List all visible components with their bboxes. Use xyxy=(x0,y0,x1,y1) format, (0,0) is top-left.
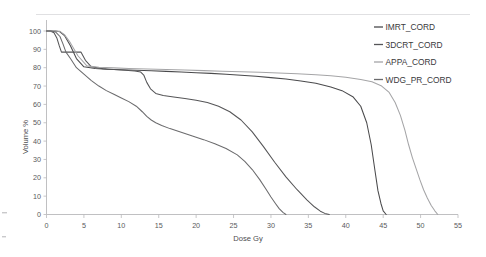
y-tick-label: 100 xyxy=(29,27,41,36)
x-tick-labels: 0510152025303540455055 xyxy=(45,221,463,230)
y-tick-label: 40 xyxy=(33,137,41,146)
y-tick-label: 20 xyxy=(33,173,41,182)
y-axis-title: Volume % xyxy=(21,120,30,154)
y-tick-label: 70 xyxy=(33,82,41,91)
legend-item: WDG_PR_CORD xyxy=(374,75,452,85)
x-tick-label: 45 xyxy=(379,221,387,230)
x-tick-label: 5 xyxy=(82,221,86,230)
x-axis: 0510152025303540455055 Dose Gy xyxy=(45,215,463,244)
x-tick-label: 50 xyxy=(417,221,425,230)
series-3dcrt-cord xyxy=(47,31,330,215)
chart-legend: IMRT_CORD3DCRT_CORDAPPA_CORDWDG_PR_CORD xyxy=(374,22,452,85)
legend-label: APPA_CORD xyxy=(386,57,437,67)
legend-label: 3DCRT_CORD xyxy=(386,40,443,50)
chart-page: 0102030405060708090100 Volume % 05101520… xyxy=(0,0,486,257)
legend-item: APPA_CORD xyxy=(374,57,437,67)
y-axis: 0102030405060708090100 Volume % xyxy=(21,20,47,219)
x-tick-label: 55 xyxy=(454,221,462,230)
x-axis-title: Dose Gy xyxy=(233,234,263,243)
x-tick-label: 35 xyxy=(304,221,312,230)
y-tick-label: 0 xyxy=(37,210,41,219)
y-tick-labels: 0102030405060708090100 xyxy=(29,27,41,220)
y-tick-label: 90 xyxy=(33,45,41,54)
legend-item: 3DCRT_CORD xyxy=(374,40,443,50)
y-tick-label: 50 xyxy=(33,118,41,127)
x-tick-label: 20 xyxy=(192,221,200,230)
dvh-chart: 0102030405060708090100 Volume % 05101520… xyxy=(0,0,486,257)
y-tick-label: 30 xyxy=(33,155,41,164)
series-appa-cord xyxy=(47,31,438,215)
y-tick-label: 60 xyxy=(33,100,41,109)
y-tick-label: 80 xyxy=(33,63,41,72)
series-group xyxy=(47,31,438,215)
legend-label: WDG_PR_CORD xyxy=(386,75,452,85)
series-imrt-cord xyxy=(47,31,387,215)
legend-item: IMRT_CORD xyxy=(374,22,435,32)
x-tick-label: 10 xyxy=(117,221,125,230)
x-tick-marks xyxy=(47,215,459,219)
x-tick-label: 30 xyxy=(267,221,275,230)
y-tick-label: 10 xyxy=(33,192,41,201)
legend-label: IMRT_CORD xyxy=(386,22,436,32)
edge-artifacts xyxy=(2,212,7,237)
series-wdg-pr-cord xyxy=(47,31,286,215)
x-tick-label: 40 xyxy=(342,221,350,230)
x-tick-label: 25 xyxy=(230,221,238,230)
x-tick-label: 15 xyxy=(155,221,163,230)
x-tick-label: 0 xyxy=(45,221,49,230)
